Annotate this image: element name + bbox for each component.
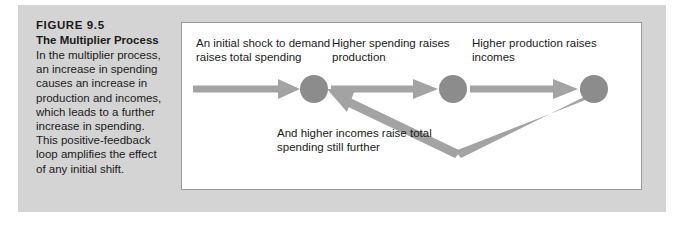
label-feedback: And higher incomes raise total spending … — [277, 127, 442, 154]
label-higher-production: Higher production raises incomes — [472, 37, 612, 64]
figure-number: FIGURE 9.5 — [36, 18, 168, 32]
node-1-circle — [300, 75, 328, 103]
arrow-shock-to-node-1 — [193, 79, 300, 99]
node-3-circle — [580, 75, 608, 103]
figure-caption-text: In the multiplier process, an increase i… — [36, 48, 168, 176]
node-2-circle — [439, 75, 467, 103]
figure-title: The Multiplier Process — [36, 33, 168, 47]
label-initial-shock: An initial shock to demand raises total … — [196, 37, 346, 64]
figure-caption-column: FIGURE 9.5 The Multiplier Process In the… — [36, 18, 168, 176]
figure-root: FIGURE 9.5 The Multiplier Process In the… — [0, 0, 673, 225]
arrow-node-2-to-node-3 — [470, 79, 578, 99]
diagram-panel: An initial shock to demand raises total … — [181, 22, 642, 190]
label-higher-spending: Higher spending raises production — [332, 37, 462, 64]
